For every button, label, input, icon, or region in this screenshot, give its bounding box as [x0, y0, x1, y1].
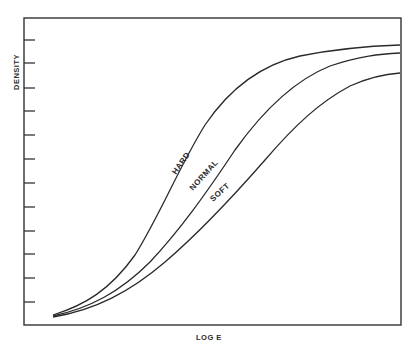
label-hard: HARD	[170, 150, 192, 176]
density-logE-chart: HARD NORMAL SOFT DENSITY LOG E	[0, 0, 412, 348]
y-axis-label: DENSITY	[12, 54, 21, 90]
x-axis-label: LOG E	[196, 333, 222, 342]
curve-hard	[53, 45, 400, 315]
curve-soft	[53, 73, 400, 317]
label-normal: NORMAL	[188, 158, 220, 192]
y-axis-ticks	[24, 40, 35, 302]
